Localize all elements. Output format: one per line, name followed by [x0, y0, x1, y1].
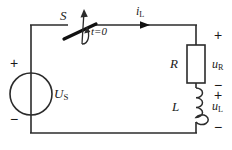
inductor-minus-sign: − [214, 120, 222, 134]
inductor-current-label: iL [136, 5, 144, 19]
switch-time-label: t=0 [91, 26, 107, 37]
resistor-body [187, 45, 205, 83]
circuit-wiring [0, 0, 232, 150]
source-subscript: S [63, 92, 68, 102]
circuit-diagram: S t=0 iL US R uR L uL + − + − + − [0, 0, 232, 150]
source-plus-sign: + [10, 56, 18, 70]
switch-label: S [60, 9, 67, 22]
switch-open-arrow-head [81, 9, 88, 18]
current-direction-arrow [140, 21, 150, 29]
inductor-label: L [172, 100, 179, 113]
current-subscript: L [139, 10, 144, 19]
source-symbol: U [54, 86, 63, 101]
source-minus-sign: − [10, 112, 18, 126]
inductor-coil [196, 88, 208, 125]
resistor-voltage-subscript: R [218, 63, 223, 72]
source-label: US [54, 87, 68, 102]
resistor-voltage-label: uR [212, 58, 223, 72]
resistor-plus-sign: + [214, 28, 222, 42]
inductor-plus-sign: + [214, 88, 222, 102]
inductor-voltage-subscript: L [218, 105, 223, 114]
resistor-label: R [170, 57, 178, 70]
